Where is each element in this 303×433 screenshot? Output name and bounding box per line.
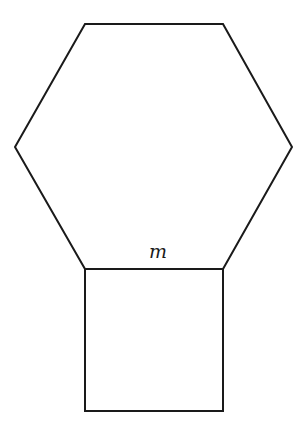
hexagon-square-diagram: m: [0, 0, 303, 433]
side-label-m: m: [149, 242, 167, 261]
hexagon: [15, 24, 292, 269]
diagram-canvas: [0, 0, 303, 433]
square: [85, 269, 223, 411]
